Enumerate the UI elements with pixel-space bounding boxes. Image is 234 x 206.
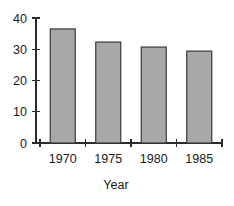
bar [141, 47, 166, 143]
x-tick-label: 1985 [185, 152, 213, 166]
x-tick-label: 1980 [140, 152, 168, 166]
bar [96, 42, 121, 143]
bar-chart-figure: 010203040 1970197519801985 Year [0, 0, 234, 206]
chart-canvas: 010203040 1970197519801985 Year [0, 0, 234, 206]
x-axis-title: Year [103, 178, 128, 192]
x-tick-label: 1975 [94, 152, 122, 166]
y-tick-label: 40 [13, 12, 27, 26]
y-tick-label: 10 [13, 105, 27, 119]
x-tick-label: 1970 [49, 152, 77, 166]
y-tick-label: 20 [13, 74, 27, 88]
bar [187, 51, 212, 143]
y-tick-label: 30 [13, 43, 27, 57]
bar [50, 29, 75, 143]
y-tick-label: 0 [20, 137, 27, 151]
